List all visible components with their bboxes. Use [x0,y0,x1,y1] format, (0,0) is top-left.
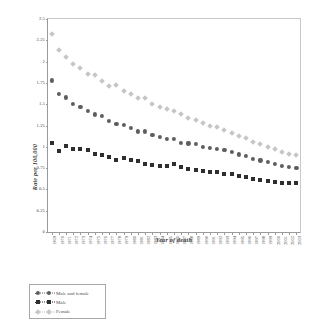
data-point-marker [71,102,75,106]
plot-frame: 00.250.50.7511.251.51.7522.252.519691970… [47,18,301,233]
x-axis-tick-mark [102,232,103,235]
x-axis-tick-mark [131,232,132,235]
data-point-marker [287,181,291,185]
data-point-marker [207,123,213,129]
legend-swatch-marker [46,309,52,315]
data-point-marker [215,170,219,174]
y-axis-tick-label: 0.5 [19,187,48,192]
x-axis-tick-mark [138,232,139,235]
data-point-marker [200,120,206,126]
data-point-marker [294,166,298,170]
data-point-marker [99,78,105,84]
y-axis-tick-label: 0.25 [19,208,48,213]
x-axis-tick-mark [181,232,182,235]
data-point-marker [56,47,62,53]
data-point-marker [128,91,134,97]
data-point-marker [64,95,68,99]
x-axis-title: Year of death [47,236,301,243]
x-axis-tick-mark [210,232,211,235]
data-point-marker [107,155,111,159]
data-point-marker [50,141,54,145]
x-axis-tick-mark [188,232,189,235]
data-point-marker [273,162,277,166]
legend-swatch-marker [35,291,39,295]
data-point-marker [208,146,212,150]
data-point-marker [165,137,169,141]
data-point-marker [222,127,228,133]
data-point-marker [50,78,54,82]
data-point-marker [100,114,104,118]
y-axis-tick-mark [46,62,49,63]
data-point-marker [86,148,90,152]
legend-item[interactable]: Male and female [34,289,101,298]
x-axis-tick-mark [124,232,125,235]
y-axis-tick-label: 1.75 [19,81,48,86]
data-point-marker [106,84,112,90]
y-axis-tick-mark [46,104,49,105]
data-point-marker [114,83,120,89]
data-point-marker [78,66,84,72]
x-axis-tick-mark [203,232,204,235]
x-axis-tick-mark [282,232,283,235]
data-point-marker [172,162,176,166]
data-point-marker [93,152,97,156]
x-axis-tick-mark [246,232,247,235]
data-point-marker [78,147,82,151]
y-axis-tick-label: 2 [19,59,48,64]
y-axis-tick-label: 2.5 [19,17,48,22]
x-axis-tick-mark [152,232,153,235]
x-axis-tick-mark [66,232,67,235]
legend-marker-circle-icon [34,289,56,298]
data-point-marker [251,157,255,161]
data-point-marker [251,177,255,181]
data-point-marker [222,148,226,152]
x-axis-tick-mark [296,232,297,235]
y-axis-tick-label: 2.25 [19,38,48,43]
data-point-marker [71,147,75,151]
data-point-marker [201,169,205,173]
data-point-marker [178,111,184,117]
data-point-marker [135,95,141,101]
data-point-marker [78,105,82,109]
x-axis-tick-mark [196,232,197,235]
x-axis-tick-mark [73,232,74,235]
y-axis-tick-mark [46,126,49,127]
data-point-marker [194,142,198,146]
x-axis-tick-mark [59,232,60,235]
data-point-marker [215,146,219,150]
data-point-marker [165,164,169,168]
data-point-marker [294,153,300,159]
data-point-marker [230,172,234,176]
x-axis-tick-mark [145,232,146,235]
x-axis-tick-mark [260,232,261,235]
x-axis-tick-mark [268,232,269,235]
legend-swatch-marker [47,291,51,295]
y-axis-tick-label: 1.5 [19,102,48,107]
data-point-marker [194,168,198,172]
data-point-marker [237,174,241,178]
y-axis-tick-mark [46,211,49,212]
data-point-marker [136,159,140,163]
data-point-marker [280,163,284,167]
legend-marker-diamond-icon [34,307,56,316]
data-point-marker [244,175,248,179]
legend-item[interactable]: Female [34,307,101,316]
data-point-marker [150,163,154,167]
data-point-marker [172,137,176,141]
data-point-marker [230,150,234,154]
data-point-marker [86,109,90,113]
legend-swatch-marker [36,300,40,304]
data-point-marker [258,158,262,162]
y-axis-tick-mark [46,168,49,169]
legend-item[interactable]: Male [34,298,101,307]
x-axis-tick-mark [160,232,161,235]
data-point-marker [107,119,111,123]
data-point-marker [201,145,205,149]
x-axis-tick-mark [109,232,110,235]
data-point-marker [157,104,163,110]
y-axis-tick-mark [46,147,49,148]
legend-item-label: Male [56,300,66,305]
data-point-marker [114,158,118,162]
y-axis-tick-label: 0 [19,230,48,235]
data-point-marker [266,179,270,183]
